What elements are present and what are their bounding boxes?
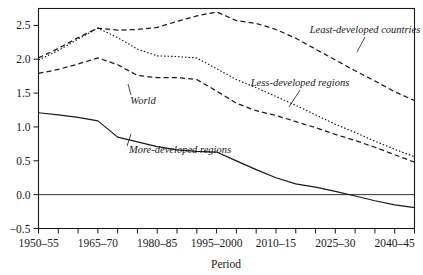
y-tick-label: 1.5 (16, 87, 31, 99)
y-tick-label: 1.0 (16, 121, 31, 133)
y-tick-label: 0.5 (16, 155, 31, 167)
series-label-more-developed-regions: More-developed regions (128, 144, 231, 155)
x-tick-label: 1980–85 (137, 237, 178, 249)
x-axis-title: Period (211, 258, 241, 270)
y-tick-label: 2.5 (16, 19, 31, 31)
y-tick-label: −0.5 (10, 223, 31, 235)
x-tick-label: 1995–2000 (191, 237, 243, 249)
x-tick-label: 2040–45 (375, 237, 416, 249)
x-tick-label: 2010–15 (256, 237, 297, 249)
x-tick-label: 2025–30 (315, 237, 356, 249)
series-label-less-developed-regions: Less-developed regions (250, 77, 349, 88)
series-label-least-developed-countries: Least-developed countries (309, 24, 421, 35)
x-tick-label: 1965–70 (78, 237, 119, 249)
chart-background (0, 0, 423, 275)
line-chart: −0.50.00.51.01.52.02.5 1950–551965–70198… (0, 0, 423, 275)
y-tick-label: 0.0 (16, 189, 31, 201)
chart-container: −0.50.00.51.01.52.02.5 1950–551965–70198… (0, 0, 423, 275)
series-label-world: World (130, 95, 156, 106)
x-tick-label: 1950–55 (18, 237, 59, 249)
y-tick-label: 2.0 (16, 53, 31, 65)
